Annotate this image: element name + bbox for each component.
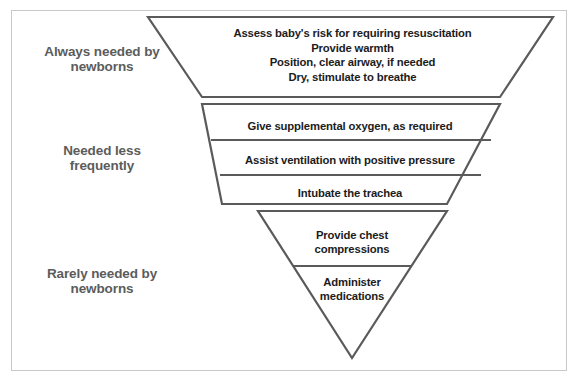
band-less-row-supplemental-oxygen: Give supplemental oxygen, as required <box>190 120 510 132</box>
band-always-line-3: Position, clear airway, if needed <box>205 55 500 70</box>
band-rarely-meds-line1: Administer <box>237 275 467 289</box>
band-rarely-row-administer-medications: Administer medications <box>237 275 467 303</box>
side-label-always-line2: newborns <box>22 59 182 74</box>
band-rarely-chest-line1: Provide chest <box>237 228 467 242</box>
diagram-canvas: Always needed by newborns Needed less fr… <box>0 0 581 383</box>
band-always-line-4: Dry, stimulate to breathe <box>205 70 500 85</box>
band-rarely-chest-line2: compressions <box>237 242 467 256</box>
band-less-row-intubate-trachea: Intubate the trachea <box>190 187 510 199</box>
side-label-always-line1: Always needed by <box>22 44 182 59</box>
side-label-rarely-needed: Rarely needed by newborns <box>22 266 182 296</box>
side-label-always-needed: Always needed by newborns <box>22 44 182 74</box>
band-rarely-meds-line2: medications <box>237 289 467 303</box>
band-always-line-1: Assess baby's risk for requiring resusci… <box>205 26 500 41</box>
side-label-rarely-line2: newborns <box>22 281 182 296</box>
band-always-text-block: Assess baby's risk for requiring resusci… <box>205 26 500 84</box>
side-label-needed-less-frequently: Needed less frequently <box>22 143 182 173</box>
band-less-row-assist-ventilation: Assist ventilation with positive pressur… <box>190 154 510 166</box>
side-label-less-line1: Needed less <box>22 143 182 158</box>
side-label-less-line2: frequently <box>22 158 182 173</box>
side-label-rarely-line1: Rarely needed by <box>22 266 182 281</box>
band-rarely-row-chest-compressions: Provide chest compressions <box>237 228 467 256</box>
band-always-line-2: Provide warmth <box>205 41 500 56</box>
